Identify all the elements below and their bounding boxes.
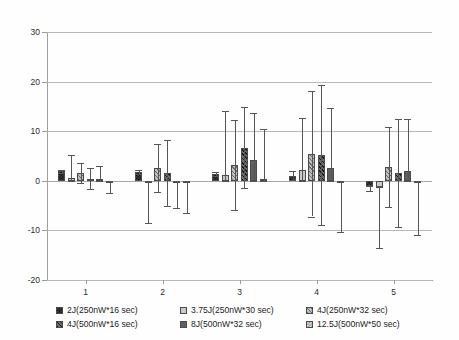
error-bar-cap-upper: [68, 155, 75, 156]
error-bar-cap-lower: [414, 235, 421, 236]
gridline-0: [47, 181, 432, 182]
error-bar-cap-upper: [173, 181, 180, 182]
y-tick-label: 30: [31, 27, 40, 37]
error-bar-cap-lower: [96, 181, 103, 182]
x-tick-label: 3: [237, 287, 242, 297]
legend-item-0[interactable]: 2J(250nW*16 sec): [56, 303, 180, 317]
error-bar-cap-lower: [299, 181, 306, 182]
chart-legend: 2J(250nW*16 sec)3.75J(250nW*30 sec)4J(25…: [56, 303, 416, 331]
series-3-swatch-icon: [56, 321, 63, 328]
error-bar-cap-upper: [395, 119, 402, 120]
error-bar-cap-upper: [58, 170, 65, 171]
error-bar-cap-lower: [154, 192, 161, 193]
legend-label-3: 4J(500nW*16 sec): [67, 320, 138, 329]
y-tick-label: 20: [31, 77, 40, 87]
legend-item-2[interactable]: 4J(250nW*32 sec): [306, 303, 426, 317]
error-bar-cap-lower: [289, 180, 296, 181]
error-bar-cap-upper: [376, 186, 383, 187]
error-bar-series-2-group-0: [81, 163, 82, 183]
error-bar-cap-upper: [106, 181, 113, 182]
error-bar-cap-lower: [222, 181, 229, 182]
x-tick-label: 1: [83, 287, 88, 297]
error-bar-cap-lower: [308, 217, 315, 218]
error-bar-series-0-group-3: [293, 171, 294, 180]
error-bar-cap-lower: [231, 210, 238, 211]
error-bar-series-4-group-0: [100, 166, 101, 181]
error-bar-cap-upper: [87, 168, 94, 169]
error-bar-series-3-group-2: [244, 107, 245, 187]
legend-label-2: 4J(250nW*32 sec): [317, 306, 388, 315]
x-tick-mark: [163, 280, 164, 284]
legend-item-5[interactable]: 12.5J(500nW*50 sec): [306, 317, 426, 331]
error-bar-series-1-group-4: [379, 186, 380, 248]
error-bar-series-1-group-1: [148, 181, 149, 223]
error-bar-cap-upper: [404, 119, 411, 120]
x-tick-mark: [240, 280, 241, 284]
series-5-swatch-icon: [306, 321, 313, 328]
error-bar-cap-lower: [77, 183, 84, 184]
error-bar-cap-upper: [164, 140, 171, 141]
error-bar-cap-upper: [308, 91, 315, 92]
error-bar-series-3-group-0: [90, 168, 91, 189]
error-bar-cap-lower: [404, 181, 411, 182]
series-1-swatch-icon: [180, 307, 187, 314]
error-bar-series-1-group-3: [302, 118, 303, 181]
error-bar-series-5-group-4: [418, 181, 419, 236]
legend-item-4[interactable]: 8J(500nW*32 sec): [180, 317, 306, 331]
error-bar-cap-lower: [183, 213, 190, 214]
error-bar-cap-upper: [366, 186, 373, 187]
legend-item-1[interactable]: 3.75J(250nW*30 sec): [180, 303, 306, 317]
error-bar-series-2-group-2: [235, 120, 236, 209]
error-bar-cap-upper: [231, 120, 238, 121]
error-bar-series-1-group-0: [71, 155, 72, 181]
y-tick-mark: [42, 82, 47, 83]
x-tick-mark: [86, 280, 87, 284]
error-bar-series-5-group-2: [264, 129, 265, 181]
error-bar-cap-upper: [241, 107, 248, 108]
error-bar-cap-upper: [77, 163, 84, 164]
error-bar-cap-lower: [327, 181, 334, 182]
error-bar-cap-lower: [318, 225, 325, 226]
y-tick-label: 10: [31, 126, 40, 136]
y-tick-mark: [42, 131, 47, 132]
y-tick-mark: [42, 32, 47, 33]
error-bar-series-2-group-1: [158, 144, 159, 192]
error-bar-cap-lower: [106, 193, 113, 194]
legend-label-1: 3.75J(250nW*30 sec): [191, 306, 274, 315]
legend-item-3[interactable]: 4J(500nW*16 sec): [56, 317, 180, 331]
error-bar-series-4-group-1: [177, 181, 178, 208]
error-bar-series-5-group-3: [341, 181, 342, 232]
error-bar-cap-lower: [385, 207, 392, 208]
error-bar-cap-upper: [289, 171, 296, 172]
error-bar-cap-upper: [327, 108, 334, 109]
y-tick-label: -10: [28, 225, 40, 235]
error-bar-cap-lower: [164, 206, 171, 207]
error-bar-cap-upper: [337, 181, 344, 182]
x-tick-mark: [394, 280, 395, 284]
x-tick-label: 4: [314, 287, 319, 297]
y-tick-label: 0: [35, 176, 40, 186]
error-bar-cap-upper: [222, 111, 229, 112]
series-0-swatch-icon: [56, 307, 63, 314]
error-bar-series-3-group-1: [167, 140, 168, 205]
error-bar-cap-upper: [299, 118, 306, 119]
legend-label-4: 8J(500nW*32 sec): [191, 320, 262, 329]
y-tick-label: -20: [28, 275, 40, 285]
gridline-20: [47, 82, 432, 83]
error-bar-cap-upper: [96, 166, 103, 167]
error-bar-cap-lower: [87, 189, 94, 190]
error-bar-cap-lower: [395, 227, 402, 228]
series-2-swatch-icon: [306, 307, 313, 314]
error-bar-series-2-group-4: [389, 127, 390, 206]
error-bar-cap-lower: [241, 188, 248, 189]
error-bar-series-4-group-3: [331, 108, 332, 181]
error-bar-cap-upper: [414, 181, 421, 182]
error-bar-cap-lower: [376, 248, 383, 249]
x-tick-label: 5: [391, 287, 396, 297]
x-tick-label: 2: [160, 287, 165, 297]
y-tick-mark: [42, 181, 47, 182]
error-bar-cap-upper: [318, 85, 325, 86]
error-bar-cap-lower: [366, 191, 373, 192]
error-bar-cap-lower: [68, 181, 75, 182]
error-bar-series-5-group-1: [187, 181, 188, 213]
